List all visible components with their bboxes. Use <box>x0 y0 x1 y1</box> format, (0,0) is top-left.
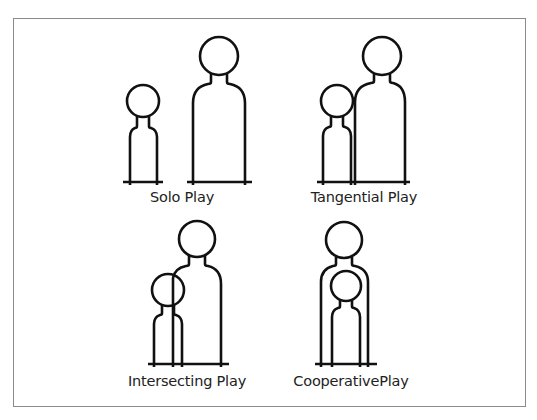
cooperative-play-label: CooperativePlay <box>293 373 408 389</box>
solo-play-figures <box>123 37 252 185</box>
play-types-diagram <box>0 0 537 420</box>
adult-figure-icon <box>355 37 405 185</box>
adult-figure-icon <box>193 37 245 185</box>
child-figure-icon <box>321 85 353 185</box>
intersecting-play-figures <box>148 221 229 367</box>
child-figure-icon <box>152 274 184 367</box>
tangential-play-label: Tangential Play <box>311 189 417 205</box>
cooperative-play-figures <box>315 222 377 367</box>
adult-figure-icon <box>173 221 221 367</box>
solo-play-label: Solo Play <box>150 189 214 205</box>
child-figure-icon <box>331 271 361 367</box>
child-figure-icon <box>127 85 159 185</box>
intersecting-play-label: Intersecting Play <box>128 373 246 389</box>
tangential-play-figures <box>317 37 410 185</box>
